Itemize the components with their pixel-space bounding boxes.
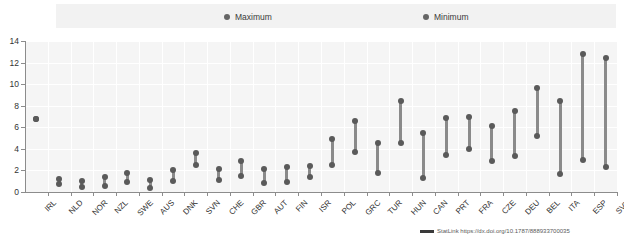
y-axis-tick-label: 2 [0,166,19,175]
source-note[interactable]: StatLink https://dx.doi.org/10.1787/8889… [420,228,570,234]
range-stem [445,118,448,156]
x-axis-tick [367,192,368,196]
x-axis-tick [458,192,459,196]
x-axis-tick-label: ESP [592,199,609,216]
x-axis-tick [344,192,345,196]
x-axis-tick-label: SVK [614,199,624,216]
y-axis-tick [21,63,25,64]
legend-label-maximum: Maximum [235,13,272,22]
x-axis-tick-label: NOR [91,199,109,217]
x-axis-tick [116,192,117,196]
x-axis-tick-label: PRT [455,199,472,216]
y-axis-tick [21,41,25,42]
range-stem [468,117,471,149]
legend-marker-minimum-icon [423,14,429,20]
gridline-vertical [275,41,276,192]
gridline-vertical [321,41,322,192]
source-note-text: StatLink https://dx.doi.org/10.1787/8889… [437,228,570,234]
maximum-marker[interactable] [466,114,472,120]
minimum-marker[interactable] [603,164,609,170]
range-stem [581,54,584,160]
minimum-marker[interactable] [557,171,563,177]
maximum-marker[interactable] [603,55,609,61]
y-axis-tick [21,106,25,107]
x-axis-tick [412,192,413,196]
x-axis-tick-label: FIN [295,199,310,214]
range-stem [604,58,607,167]
x-axis-tick [594,192,595,196]
x-axis-tick [549,192,550,196]
y-axis-tick-label: 8 [0,102,19,111]
x-axis-tick-label: GRC [364,199,382,217]
maximum-marker[interactable] [512,108,518,114]
maximum-marker[interactable] [580,51,586,57]
x-axis-tick [480,192,481,196]
plot-area [25,41,617,192]
gridline-vertical [367,41,368,192]
minimum-marker[interactable] [580,157,586,163]
x-axis-tick-label: CAN [432,199,450,217]
x-axis-tick-label: CZE [500,199,517,216]
minimum-marker[interactable] [79,184,85,190]
x-axis-tick [321,192,322,196]
gridline-vertical [503,41,504,192]
range-stem [399,101,402,143]
minimum-marker[interactable] [512,153,518,159]
gridline-vertical [412,41,413,192]
minimum-marker[interactable] [307,174,313,180]
maximum-marker[interactable] [352,118,358,124]
x-axis-tick-label: AUS [159,199,176,216]
range-stem [490,126,493,161]
x-axis-tick [207,192,208,196]
minimum-marker[interactable] [489,158,495,164]
statlink-bar-icon [420,230,434,233]
x-axis-tick-label: TUR [387,199,404,216]
x-axis-tick-label: AUT [273,199,290,216]
minimum-marker[interactable] [147,185,153,191]
x-axis-tick-label: DEU [523,199,541,217]
x-axis-tick-label: SWE [137,199,156,218]
maximum-marker[interactable] [443,115,449,121]
legend-item-minimum[interactable]: Minimum [423,13,468,22]
maximum-marker[interactable] [102,174,108,180]
x-axis-tick [526,192,527,196]
y-axis-tick-label: 4 [0,145,19,154]
minimum-marker[interactable] [216,177,222,183]
maximum-marker[interactable] [216,166,222,172]
legend-label-minimum: Minimum [434,13,468,22]
gridline-vertical [480,41,481,192]
x-axis-tick-label: NLD [68,199,85,216]
minimum-marker[interactable] [375,170,381,176]
gridline-vertical [139,41,140,192]
range-stem [376,143,379,172]
x-axis-tick [275,192,276,196]
minimum-marker[interactable] [102,183,108,189]
range-stem [513,111,516,156]
y-axis-line [25,41,26,192]
legend-item-maximum[interactable]: Maximum [224,13,272,22]
maximum-marker[interactable] [307,163,313,169]
gridline-vertical [184,41,185,192]
gridline-vertical [389,41,390,192]
gridline-vertical [48,41,49,192]
minimum-marker[interactable] [193,162,199,168]
y-axis-tick [21,84,25,85]
x-axis-tick [230,192,231,196]
gridline-vertical [571,41,572,192]
range-chart: Maximum Minimum 02468101214 IRLNLDNORNZL… [0,0,624,236]
gridline-vertical [458,41,459,192]
y-axis-tick-label: 10 [0,80,19,89]
x-axis-tick [298,192,299,196]
y-axis-tick [21,149,25,150]
x-axis-tick-label: GBR [250,199,268,217]
y-axis-tick [21,170,25,171]
maximum-marker[interactable] [489,123,495,129]
minimum-marker[interactable] [466,146,472,152]
maximum-marker[interactable] [193,150,199,156]
gridline-vertical [116,41,117,192]
gridline-vertical [617,41,618,192]
x-axis-tick [253,192,254,196]
maximum-marker[interactable] [284,164,290,170]
x-axis-tick [571,192,572,196]
x-axis-tick [48,192,49,196]
